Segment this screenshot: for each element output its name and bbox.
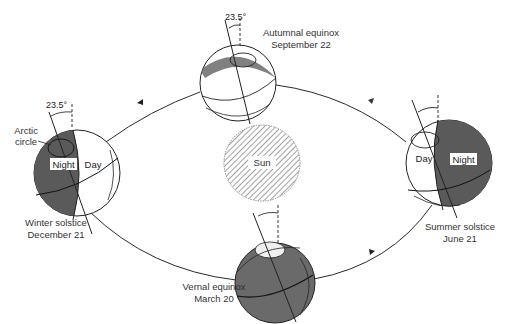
winter-night-label: Night <box>52 159 75 170</box>
vernal-label-line2: March 20 <box>194 293 234 304</box>
summer-night-label: Night <box>452 154 475 165</box>
orbit-bottom-right <box>314 205 432 279</box>
orbit-top-right <box>276 85 406 142</box>
tilt-label-winter: 23.5° <box>46 100 68 110</box>
summer-day-label: Day <box>416 153 433 164</box>
earth-winter-solstice: 23.5° Night Day Arctic circle Winter sol… <box>14 100 120 240</box>
orbit-top-left <box>106 92 200 142</box>
winter-label-line1: Winter solstice <box>25 217 87 228</box>
sun-label: Sun <box>254 157 271 168</box>
tilt-label-autumnal: 23.5° <box>225 12 247 22</box>
seasons-diagram: Sun 23.5° Autumnal equinox September 22 … <box>0 0 505 324</box>
arrow-icon-bottom-right <box>369 249 375 255</box>
arrow-icon-top-right <box>368 98 374 104</box>
autumnal-label-line1: Autumnal equinox <box>263 27 339 38</box>
orbit-bottom-left <box>90 212 236 280</box>
summer-label-line2: June 21 <box>443 233 477 244</box>
summer-label-line1: Summer solstice <box>425 221 495 232</box>
autumnal-label-line2: September 22 <box>271 39 331 50</box>
winter-day-label: Day <box>85 159 102 170</box>
arctic-label-line1: Arctic <box>14 125 38 136</box>
arctic-label-line2: circle <box>15 136 37 147</box>
earth-autumnal-equinox: 23.5° Autumnal equinox September 22 <box>200 12 339 124</box>
vernal-label-line1: Vernal equinox <box>183 281 246 292</box>
sun: Sun <box>224 125 300 201</box>
arrow-icon-top-left <box>137 99 143 105</box>
winter-label-line2: December 21 <box>27 229 84 240</box>
earth-vernal-equinox: Vernal equinox March 20 <box>183 205 315 323</box>
